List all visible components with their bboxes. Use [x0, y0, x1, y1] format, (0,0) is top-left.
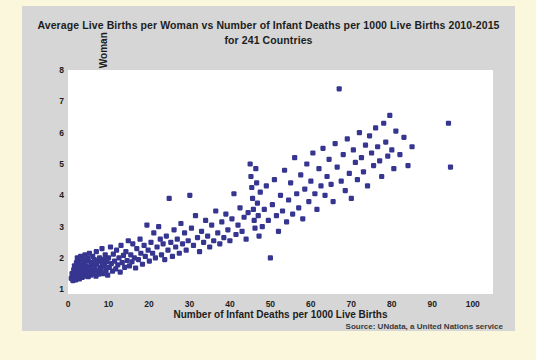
data-point — [298, 172, 303, 177]
data-point — [146, 248, 151, 253]
data-point — [189, 226, 194, 231]
data-point — [308, 179, 313, 184]
data-point — [377, 158, 382, 163]
data-point — [178, 221, 183, 226]
data-point — [217, 241, 222, 246]
data-point — [268, 255, 273, 260]
data-point — [165, 248, 170, 253]
data-point — [122, 265, 127, 270]
x-tick-20: 20 — [138, 299, 160, 309]
data-point — [162, 257, 167, 262]
data-point — [134, 246, 139, 251]
x-axis-title: Number of Infant Deaths per 1000 Live Bi… — [68, 309, 493, 320]
data-point — [255, 201, 260, 206]
data-point — [144, 222, 149, 227]
data-point — [233, 232, 238, 237]
data-point — [361, 169, 366, 174]
data-point — [158, 237, 163, 242]
data-point — [191, 243, 196, 248]
data-point — [114, 248, 119, 253]
data-point — [235, 222, 240, 227]
data-point — [252, 226, 257, 231]
data-point — [223, 212, 228, 217]
data-point — [118, 243, 123, 248]
y-tick-5: 5 — [50, 159, 64, 169]
data-point — [248, 174, 253, 179]
data-point — [339, 179, 344, 184]
data-point — [175, 237, 180, 242]
y-tick-4: 4 — [50, 190, 64, 200]
data-point — [318, 183, 323, 188]
data-point — [156, 224, 161, 229]
data-point — [94, 249, 99, 254]
data-point — [274, 213, 279, 218]
data-point — [322, 193, 327, 198]
data-point — [389, 147, 394, 152]
data-point — [306, 199, 311, 204]
data-point — [326, 157, 331, 162]
data-point — [193, 213, 198, 218]
data-point — [448, 165, 453, 170]
data-point — [237, 205, 242, 210]
data-point — [105, 273, 110, 278]
y-tick-2: 2 — [50, 253, 64, 263]
data-point — [136, 257, 141, 262]
data-point — [244, 237, 249, 242]
x-tick-80: 80 — [381, 299, 403, 309]
data-point — [345, 136, 350, 141]
source-note: Source: UNdata, a United Nations service — [22, 322, 509, 331]
data-point — [286, 197, 291, 202]
data-point — [170, 254, 175, 259]
data-point — [219, 219, 224, 224]
data-point — [116, 255, 121, 260]
data-point — [357, 130, 362, 135]
data-point — [168, 240, 173, 245]
data-point — [264, 183, 269, 188]
data-point — [296, 205, 301, 210]
x-tick-50: 50 — [259, 299, 281, 309]
data-point — [164, 233, 169, 238]
data-point — [133, 265, 138, 270]
data-point — [355, 177, 360, 182]
data-point — [125, 258, 130, 263]
data-point — [187, 193, 192, 198]
data-point — [379, 174, 384, 179]
data-point — [405, 163, 410, 168]
data-point — [211, 238, 216, 243]
data-point — [171, 227, 176, 232]
data-point — [351, 147, 356, 152]
x-tick-60: 60 — [300, 299, 322, 309]
data-point — [186, 238, 191, 243]
y-tick-8: 8 — [50, 65, 64, 75]
data-point — [256, 233, 261, 238]
data-point — [195, 235, 200, 240]
data-point — [337, 86, 342, 91]
data-point — [120, 260, 125, 265]
data-point — [310, 150, 315, 155]
data-point — [365, 183, 370, 188]
data-point — [123, 249, 128, 254]
chart-panel: Average Live Births per Woman vs Number … — [22, 6, 515, 331]
x-tick-100: 100 — [462, 299, 484, 309]
data-point — [184, 248, 189, 253]
data-point — [215, 230, 220, 235]
data-point — [147, 259, 152, 264]
data-point — [324, 174, 329, 179]
scatter-plot-svg — [68, 70, 493, 294]
data-point — [349, 196, 354, 201]
data-point — [115, 262, 120, 267]
data-point — [284, 219, 289, 224]
data-point — [167, 196, 172, 201]
data-point — [207, 244, 212, 249]
data-point — [302, 186, 307, 191]
data-point — [260, 224, 265, 229]
data-point — [256, 213, 261, 218]
data-point — [385, 154, 390, 159]
data-point — [314, 207, 319, 212]
data-point — [106, 255, 111, 260]
data-point — [304, 161, 309, 166]
data-point — [173, 244, 178, 249]
data-point — [221, 235, 226, 240]
data-point — [197, 249, 202, 254]
data-point — [272, 177, 277, 182]
